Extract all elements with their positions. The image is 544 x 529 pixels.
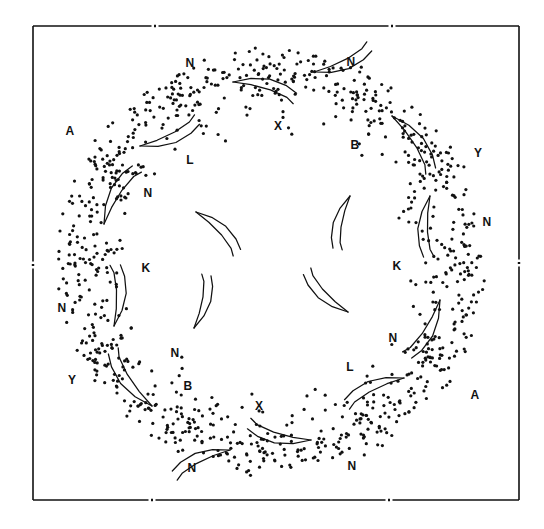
cluster-label-l-6: L [186, 153, 194, 167]
hook-glyph [104, 166, 141, 224]
cluster-label-y-15: Y [68, 373, 76, 387]
cluster-label-b-4: B [351, 138, 360, 152]
cluster-label-n-20: N [348, 459, 357, 473]
point-cluster [125, 356, 241, 470]
point-cluster [200, 393, 351, 477]
cluster-label-k-9: K [142, 261, 151, 275]
hook-glyph [331, 196, 350, 250]
cluster-label-a-2: A [66, 124, 75, 138]
hook-glyph [194, 274, 213, 328]
cluster-label-n-19: N [188, 461, 197, 475]
cluster-label-k-10: K [393, 259, 402, 273]
cluster-label-x-3: X [274, 119, 282, 133]
hook-glyph [140, 115, 200, 147]
point-cluster [382, 291, 480, 418]
hook-glyph [247, 418, 311, 443]
cluster-label-n-7: N [144, 186, 153, 200]
hook-glyph [418, 196, 434, 257]
cluster-label-n-1: N [347, 55, 356, 69]
hook-glyph [303, 268, 348, 312]
cluster-label-x-18: X [255, 399, 263, 413]
hook-glyph [196, 212, 241, 256]
hook-glyphs [104, 42, 440, 480]
point-pattern-artwork [0, 0, 544, 529]
point-cluster [171, 47, 371, 136]
cluster-label-l-14: L [346, 360, 354, 374]
hook-glyph [314, 42, 372, 73]
figure-canvas: NNAXBYLNNKKNNNLYBAXNN [0, 0, 544, 529]
point-cluster [57, 200, 124, 342]
cluster-label-b-16: B [184, 379, 193, 393]
cluster-label-n-12: N [389, 331, 398, 345]
hook-glyph [233, 78, 297, 103]
axis-frame [33, 26, 519, 500]
cluster-label-a-17: A [471, 388, 480, 402]
cluster-label-n-8: N [483, 215, 492, 229]
hook-glyph [108, 348, 152, 406]
cluster-label-n-13: N [171, 346, 180, 360]
hook-glyph [110, 265, 126, 326]
cluster-label-y-5: Y [474, 146, 482, 160]
cluster-label-n-11: N [58, 301, 67, 315]
cluster-label-n-0: N [186, 56, 195, 70]
point-cluster [407, 193, 486, 339]
point-clusters [57, 47, 486, 477]
